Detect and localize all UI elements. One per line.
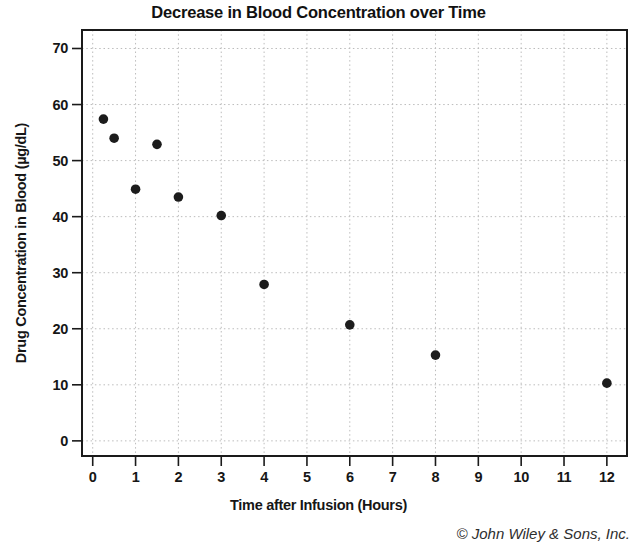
data-point bbox=[131, 184, 141, 194]
x-tick-label: 11 bbox=[557, 469, 572, 485]
x-tick-label: 5 bbox=[303, 469, 311, 485]
y-tick-label: 70 bbox=[52, 40, 68, 56]
x-tick-label: 2 bbox=[175, 469, 183, 485]
plot-border bbox=[82, 30, 627, 456]
y-tick-label: 60 bbox=[52, 97, 68, 113]
data-point bbox=[109, 133, 119, 143]
x-axis-title: Time after Infusion (Hours) bbox=[0, 497, 637, 513]
data-point bbox=[259, 280, 269, 290]
x-tick-label: 9 bbox=[474, 469, 482, 485]
x-tick-label: 8 bbox=[432, 469, 440, 485]
copyright-notice: © John Wiley & Sons, Inc. bbox=[457, 525, 631, 542]
x-tick-label: 4 bbox=[260, 469, 268, 485]
x-tick-label: 10 bbox=[513, 469, 529, 485]
x-tick-label: 12 bbox=[599, 469, 615, 485]
y-tick-label: 20 bbox=[52, 321, 68, 337]
y-tick-label: 40 bbox=[52, 209, 68, 225]
x-tick-label: 6 bbox=[346, 469, 354, 485]
scatter-plot: 0123456789101112010203040506070 bbox=[0, 0, 637, 549]
data-point bbox=[345, 320, 355, 330]
y-axis-title: Drug Concentration in Blood (µg/dL) bbox=[13, 123, 29, 363]
x-tick-label: 0 bbox=[89, 469, 97, 485]
x-tick-label: 1 bbox=[132, 469, 140, 485]
x-tick-label: 7 bbox=[389, 469, 397, 485]
y-tick-label: 30 bbox=[52, 265, 68, 281]
data-point bbox=[152, 140, 162, 150]
y-tick-label: 0 bbox=[60, 433, 68, 449]
data-point bbox=[602, 378, 612, 388]
y-tick-label: 10 bbox=[52, 377, 68, 393]
x-tick-label: 3 bbox=[217, 469, 225, 485]
data-point bbox=[431, 350, 441, 360]
data-point bbox=[99, 114, 109, 124]
data-point bbox=[174, 192, 184, 202]
y-tick-label: 50 bbox=[52, 153, 68, 169]
data-point bbox=[216, 211, 226, 221]
chart-figure: Decrease in Blood Concentration over Tim… bbox=[0, 0, 637, 549]
